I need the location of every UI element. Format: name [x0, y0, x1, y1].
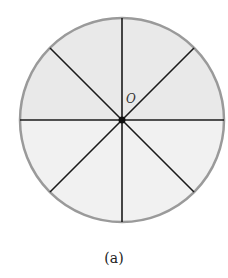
- center-label: O: [126, 92, 136, 106]
- center-point: [119, 117, 126, 124]
- figure-caption: (a): [0, 250, 228, 266]
- circle-diagram: O: [0, 0, 228, 278]
